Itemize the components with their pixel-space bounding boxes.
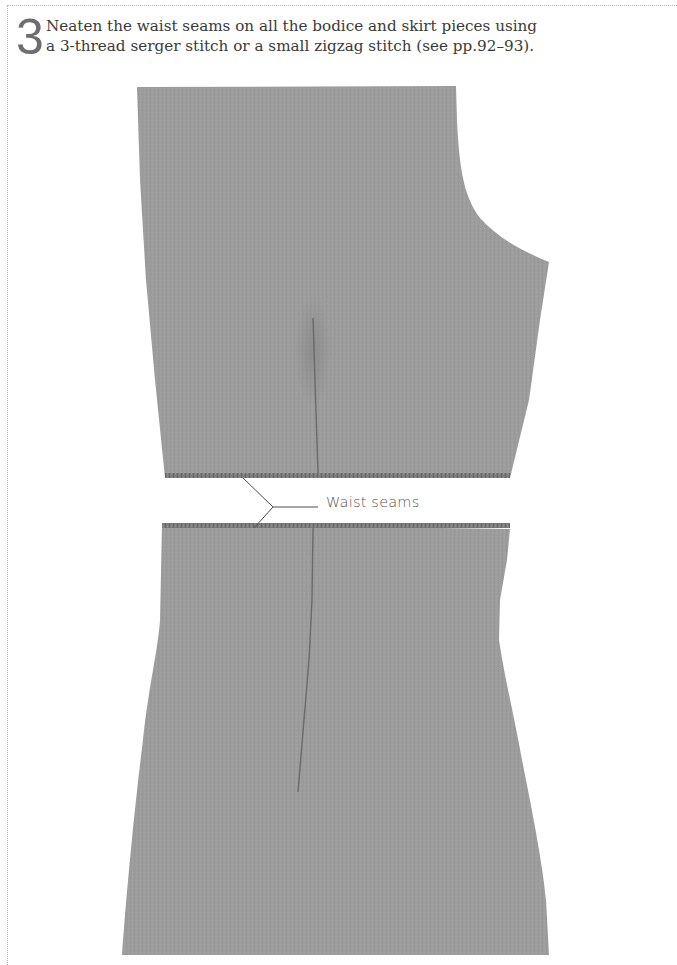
skirt-piece [122, 523, 549, 955]
skirt-overlocked-edge [162, 523, 510, 528]
skirt-fabric [122, 524, 549, 955]
waist-seams-leader [243, 478, 318, 528]
bodice-piece [137, 86, 549, 478]
bodice-overlocked-edge [165, 473, 510, 478]
waist-seams-label: Waist seams [326, 493, 419, 511]
bust-shadow [295, 295, 331, 405]
bodice-fabric [137, 86, 549, 478]
